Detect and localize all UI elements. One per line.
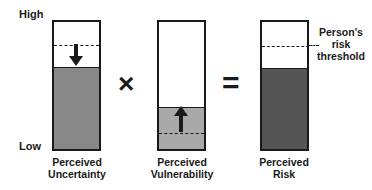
perceived-uncertainty-caption: Perceived Uncertainty [40, 156, 114, 180]
caption-line: Risk [247, 168, 321, 180]
perceived-uncertainty-fill [54, 67, 99, 149]
axis-low-label: Low [19, 140, 41, 152]
vulnerability-threshold-dashed-line [159, 133, 204, 134]
axis-high-label: High [19, 8, 43, 20]
caption-line: Perceived [247, 156, 321, 168]
annotation-line: risk [312, 38, 370, 50]
perceived-risk-caption: Perceived Risk [247, 156, 321, 180]
arrow-down-icon [68, 44, 84, 67]
caption-line: Perceived [141, 156, 223, 168]
risk-threshold-dashed-line [262, 46, 309, 47]
caption-line: Perceived [40, 156, 114, 168]
equals-operator: = [222, 66, 240, 100]
perceived-vulnerability-caption: Perceived Vulnerability [141, 156, 223, 180]
arrow-up-icon [173, 106, 189, 132]
caption-line: Uncertainty [40, 168, 114, 180]
risk-threshold-annotation: Person's risk threshold [312, 26, 370, 62]
caption-line: Vulnerability [141, 168, 223, 180]
annotation-line: Person's [312, 26, 370, 38]
perceived-uncertainty-bar [52, 20, 101, 151]
perceived-risk-fill [262, 68, 307, 149]
annotation-line: threshold [312, 50, 370, 62]
perceived-risk-bar [260, 20, 309, 151]
multiply-operator: × [118, 68, 134, 100]
